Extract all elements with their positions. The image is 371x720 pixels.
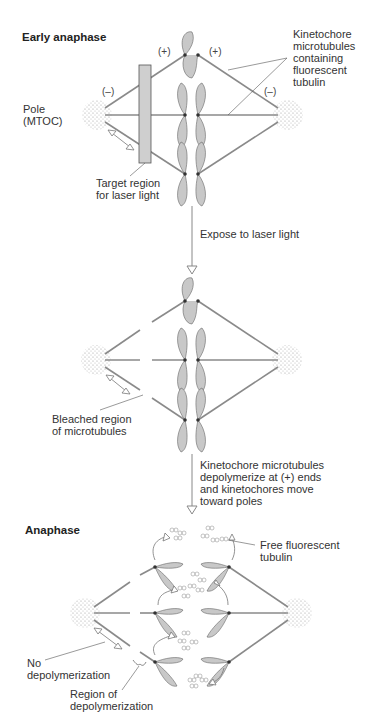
minus-left-label: (–) [102, 86, 114, 98]
anaphase-title: Anaphase [25, 524, 80, 536]
kinetochore-microtubules-label: Kinetochore microtubules containing fluo… [293, 28, 355, 88]
early-anaphase-title: Early anaphase [22, 31, 106, 43]
depolymerize-step-label: Kinetochore microtubules depolymerize at… [200, 459, 324, 507]
bleached-region-label: Bleached region of microtubules [52, 413, 132, 437]
plus-left-label: (+) [158, 46, 171, 58]
arrow-2 [187, 454, 197, 514]
free-tubulin [170, 526, 228, 688]
free-tubulin-label: Free fluorescent tubulin [260, 539, 339, 563]
plus-right-label: (+) [209, 46, 222, 58]
expose-laser-label: Expose to laser light [200, 228, 299, 240]
pole-label: Pole (MTOC) [23, 103, 63, 127]
arrow-1 [187, 206, 197, 274]
no-depolymerization-label: No depolymerization [27, 657, 110, 681]
minus-right-label: (–) [264, 86, 276, 98]
target-region-label: Target region for laser light [96, 177, 160, 201]
region-depolymerization-label: Region of depolymerization [70, 688, 153, 712]
laser-target-region [139, 65, 151, 163]
